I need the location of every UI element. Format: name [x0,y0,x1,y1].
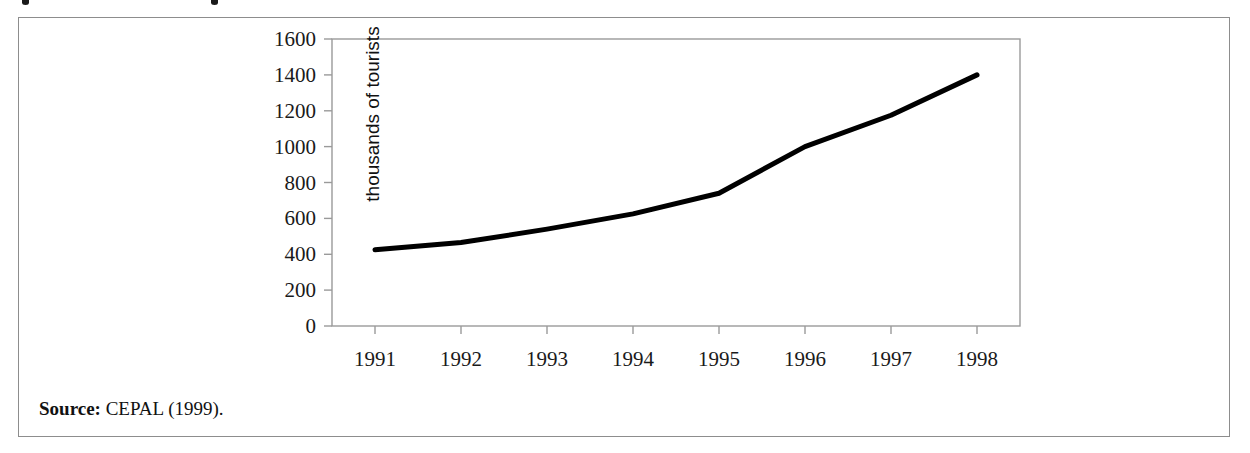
source-label: Source: [39,398,101,419]
x-axis-label-1998: 1998 [942,349,1012,370]
chart-plot-svg [19,18,1231,438]
plot-area-frame [332,39,1020,326]
x-axis-label-1991: 1991 [340,349,410,370]
x-axis-label-1993: 1993 [512,349,582,370]
y-axis-ticks [324,39,332,326]
y-axis-label-0: 0 [256,316,316,337]
figure-frame: thousands of tourists 1600 1400 1200 100… [18,17,1230,437]
x-axis-label-1995: 1995 [684,349,754,370]
source-value: CEPAL (1999). [106,398,224,419]
x-axis-label-1992: 1992 [426,349,496,370]
x-axis-label-1996: 1996 [770,349,840,370]
x-axis-label-1994: 1994 [598,349,668,370]
y-axis-label-1200: 1200 [256,101,316,122]
y-axis-label-800: 800 [256,173,316,194]
y-axis-title: thousands of tourists [360,0,386,229]
y-axis-label-200: 200 [256,280,316,301]
y-axis-label-600: 600 [256,208,316,229]
caption-descender-mark [211,0,218,5]
clipped-caption-remnants [0,0,1250,10]
source-note: Source: CEPAL (1999). [39,398,224,420]
y-axis-label-1000: 1000 [256,137,316,158]
line-chart: thousands of tourists 1600 1400 1200 100… [19,18,1231,438]
x-axis-label-1997: 1997 [856,349,926,370]
y-axis-label-1600: 1600 [256,29,316,50]
y-axis-label-1400: 1400 [256,65,316,86]
y-axis-label-400: 400 [256,244,316,265]
x-axis-ticks [375,326,977,334]
caption-descender-mark [22,0,29,5]
